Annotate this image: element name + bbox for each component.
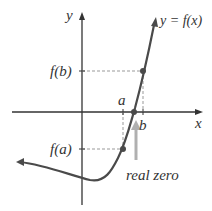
zero-label: real zero: [126, 168, 179, 183]
b-label: b: [139, 118, 147, 133]
curve-label: y = f(x): [160, 14, 202, 28]
curve-right-arrow-icon: [151, 17, 158, 27]
curve-f: [20, 25, 154, 180]
graph-canvas: [0, 0, 212, 211]
y-axis-label: y: [66, 8, 73, 23]
y-axis-arrow-icon: [79, 12, 85, 20]
fb-label: f(b): [50, 64, 72, 79]
curve-left-arrow-icon: [16, 158, 24, 166]
point-zero: [131, 109, 137, 115]
point-fb: [140, 68, 146, 74]
x-axis-label: x: [195, 116, 202, 131]
point-fa: [120, 146, 126, 152]
fa-label: f(a): [50, 142, 72, 157]
diagram: y y = f(x) f(b) f(a) a b x real zero: [0, 0, 212, 211]
a-label: a: [118, 93, 126, 108]
